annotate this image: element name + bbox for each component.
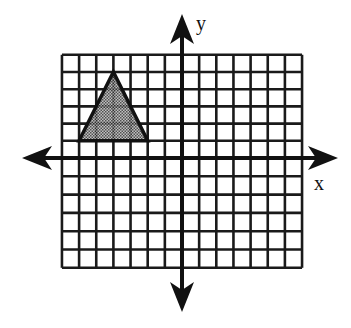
coordinate-plane: x y [0,0,351,328]
x-axis-label: x [314,172,324,194]
y-axis-label: y [196,12,206,35]
